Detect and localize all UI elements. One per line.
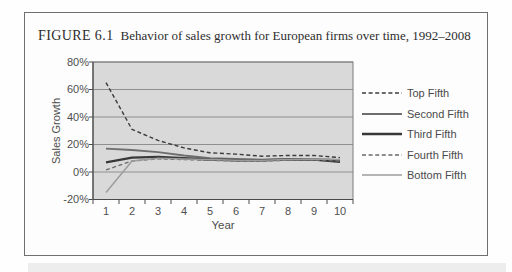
- legend-line-sample: [362, 109, 402, 119]
- legend-line-sample: [362, 170, 402, 180]
- plot-area: [88, 54, 360, 210]
- y-tick-label: 20%: [47, 138, 89, 151]
- y-tick-label: 40%: [47, 111, 89, 124]
- legend-label: Top Fifth: [407, 87, 449, 99]
- legend-item-fourth-fifth: Fourth Fifth: [362, 145, 469, 166]
- legend-label: Third Fifth: [407, 128, 457, 140]
- legend-item-bottom-fifth: Bottom Fifth: [362, 165, 469, 186]
- x-tick-label: 3: [147, 205, 169, 218]
- page-scan-artifact: [28, 263, 506, 272]
- x-tick-label: 10: [329, 205, 351, 218]
- x-tick-label: 9: [303, 205, 325, 218]
- legend: Top FifthSecond FifthThird FifthFourth F…: [362, 83, 469, 186]
- x-axis-title: Year: [183, 219, 263, 231]
- y-tick-label: 80%: [47, 56, 89, 69]
- x-tick-label: 6: [225, 205, 247, 218]
- page: FIGURE 6.1Behavior of sales growth for E…: [0, 0, 512, 272]
- x-tick-label: 1: [95, 205, 117, 218]
- legend-label: Fourth Fifth: [407, 149, 463, 161]
- x-tick-label: 2: [121, 205, 143, 218]
- y-tick-label: 0%: [47, 166, 89, 179]
- x-tick-label: 8: [277, 205, 299, 218]
- y-tick-label: -20%: [47, 193, 89, 206]
- legend-label: Second Fifth: [407, 108, 469, 120]
- x-tick-label: 5: [199, 205, 221, 218]
- y-tick-label: 60%: [47, 83, 89, 96]
- legend-item-top-fifth: Top Fifth: [362, 83, 469, 104]
- sales-growth-chart: Sales Growth 80%60%40%20%0%-20% 12345678…: [0, 0, 512, 272]
- plot-background: [93, 62, 353, 200]
- legend-line-sample: [362, 88, 402, 98]
- legend-line-sample: [362, 129, 402, 139]
- x-tick-label: 4: [173, 205, 195, 218]
- legend-line-sample: [362, 150, 402, 160]
- x-tick-label: 7: [251, 205, 273, 218]
- legend-item-third-fifth: Third Fifth: [362, 124, 469, 145]
- legend-item-second-fifth: Second Fifth: [362, 104, 469, 125]
- legend-label: Bottom Fifth: [407, 169, 466, 181]
